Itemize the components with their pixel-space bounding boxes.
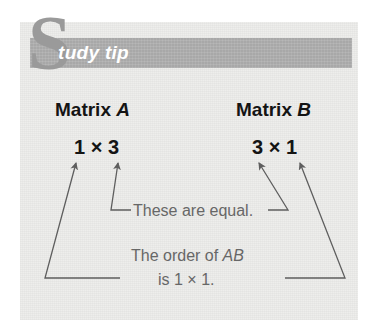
matrix-a-dimensions: 1 × 3 (74, 136, 119, 159)
matrix-b-label-name: B (297, 99, 311, 120)
matrix-a-label-prefix: Matrix (55, 99, 116, 120)
order-note-line1: The order of AB (131, 247, 244, 265)
matrix-b-dimensions: 3 × 1 (252, 136, 297, 159)
order-note-line2: is 1 × 1. (158, 271, 214, 289)
matrix-a-label: Matrix A (55, 99, 130, 121)
order-note-product-name: AB (223, 247, 244, 264)
order-note-prefix: The order of (131, 247, 223, 264)
matrix-b-label-prefix: Matrix (236, 99, 297, 120)
banner-title: tudy tip (58, 42, 129, 64)
study-tip-figure: S tudy tip Matrix A Matrix B 1 × 3 3 × 1… (0, 0, 380, 332)
matrix-b-label: Matrix B (236, 99, 311, 121)
matrix-a-label-name: A (116, 99, 130, 120)
equal-note-text: These are equal. (133, 202, 253, 220)
